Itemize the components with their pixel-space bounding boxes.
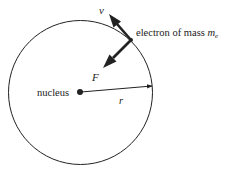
force-arrow — [103, 40, 131, 68]
orbit-diagram: v electron of mass me F nucleus r — [0, 0, 231, 170]
velocity-arrow — [109, 14, 131, 40]
electron-mass-subscript: e — [215, 32, 218, 40]
radius-label: r — [119, 95, 124, 106]
radius-arrow — [81, 86, 152, 92]
electron-label: electron of mass me — [136, 27, 218, 40]
force-label: F — [91, 71, 99, 83]
electron-label-text: electron of mass — [136, 27, 207, 38]
nucleus-label: nucleus — [37, 87, 69, 98]
velocity-label: v — [99, 4, 104, 16]
